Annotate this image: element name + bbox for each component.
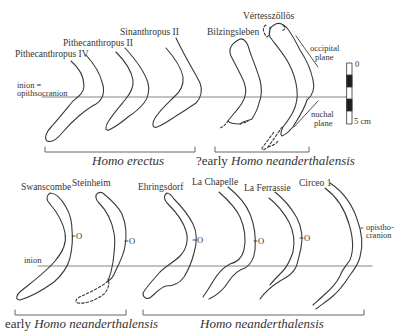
outline-circeo-1	[313, 188, 353, 305]
outline-ehringsdorf	[143, 193, 196, 298]
outline-la-chapelle-inner	[209, 187, 255, 299]
label-la-ferrassie: La Ferrassie	[244, 183, 291, 193]
outline-pithecanthropus-ii	[106, 48, 149, 130]
label-sinanthropus-ii: Sinanthropus II	[120, 27, 179, 37]
outline-swanscombe	[17, 193, 73, 300]
outline-la-ferrassie-inner	[260, 192, 302, 299]
marker-o-la-ferrassie: O	[304, 234, 310, 243]
marker-o-steinheim: O	[129, 237, 135, 246]
label-la-chapelle: La Chapelle	[192, 177, 238, 187]
label-vertesszollos: Vértesszöllös	[243, 11, 294, 21]
label-steinheim: Steinheim	[72, 178, 111, 188]
outline-steinheim	[96, 192, 126, 281]
outline-vertesszollos	[269, 24, 314, 136]
label-swanscombe: Swanscombe	[21, 182, 71, 192]
marker-o-la-chapelle: O	[258, 237, 264, 246]
label-circeo-1: Circeo 1	[299, 178, 331, 188]
outline-pithecanthropus-iv	[46, 55, 104, 141]
group-label-neanderthalensis: Homo neanderthalensis	[200, 317, 324, 331]
outline-steinheim-dashed	[76, 279, 109, 303]
scale-bar-bottom-label: 5 cm	[354, 117, 371, 126]
label-pithecanthropus-ii: Pithecanthropus II	[63, 38, 133, 48]
group-label-questionable-early-neanderthalensis: ?early Homo neanderthalensis	[196, 154, 355, 168]
marker-o-ehringsdorf: O	[197, 236, 203, 245]
label-bilzingsleben: Bilzingsleben	[207, 27, 259, 37]
outline-la-ferrassie	[269, 198, 294, 285]
bracket-homo-erectus	[45, 147, 195, 152]
label-pithecanthropus-iv: Pithecanthropus IV	[15, 49, 89, 59]
bracket-neanderthalensis	[143, 310, 364, 315]
label-inion-opisthocranion-line2: opithsocranion	[17, 89, 68, 98]
occipital-profiles-figure: Pithecanthropus IV Pithecanthropus II Si…	[0, 0, 406, 335]
bracket-early-neanderthalensis	[15, 310, 126, 315]
outline-bilzingsleben	[228, 39, 261, 124]
group-label-homo-erectus: Homo erectus	[92, 154, 164, 168]
scale-bar-top-label: 0	[355, 60, 359, 69]
outline-la-chapelle	[203, 192, 245, 297]
label-ehringsdorf: Ehringsdorf	[138, 182, 183, 192]
marker-o-swanscombe: O	[76, 232, 82, 241]
scale-bar	[347, 63, 352, 124]
label-nuchal-plane-line2: plane	[314, 119, 332, 128]
opisthocranion-ticks	[72, 228, 363, 241]
label-opisthocranion-line2: cranion	[366, 231, 392, 240]
group-label-early-neanderthalensis: early Homo neanderthalensis	[5, 317, 158, 331]
label-inion: inion	[24, 256, 41, 265]
outline-sinanthropus-ii	[153, 38, 201, 127]
label-occipital-plane-line2: plane	[315, 53, 333, 62]
